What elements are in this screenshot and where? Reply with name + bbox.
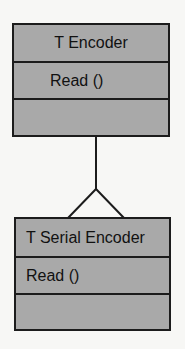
class-box-t-serial-encoder[interactable]: T Serial Encoder Read () — [14, 217, 171, 331]
class-operation: Read () — [50, 73, 103, 89]
class-attributes-section — [14, 100, 168, 135]
class-attributes-section — [16, 295, 169, 329]
class-box-t-encoder[interactable]: T Encoder Read () — [12, 23, 170, 137]
class-name-section: T Serial Encoder — [16, 219, 169, 258]
class-name: T Encoder — [54, 35, 128, 51]
inheritance-triangle-icon — [68, 189, 124, 218]
class-operation: Read () — [26, 268, 79, 284]
class-operations-section: Read () — [16, 258, 169, 295]
class-name-section: T Encoder — [14, 25, 168, 63]
class-operations-section: Read () — [14, 63, 168, 100]
class-name: T Serial Encoder — [26, 230, 145, 246]
